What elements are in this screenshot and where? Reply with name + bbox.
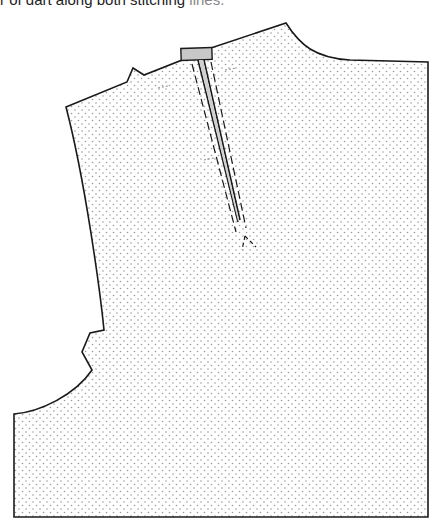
- dart-tab: [181, 47, 212, 60]
- pattern-diagram: [0, 0, 448, 523]
- pattern-outline: [14, 23, 428, 517]
